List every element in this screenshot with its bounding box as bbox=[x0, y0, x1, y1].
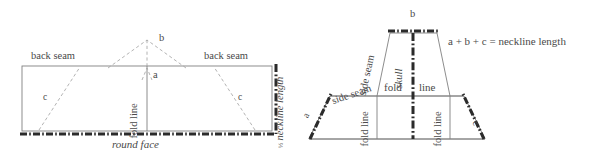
label-neckline-length: neckline length bbox=[275, 77, 286, 141]
label-fold-line-left-diagram: fold line bbox=[129, 103, 140, 138]
label-neckline-fraction: ½ bbox=[278, 143, 285, 148]
label-fold-line-right-right: fold line bbox=[433, 111, 444, 146]
right-segment-a-line bbox=[310, 94, 331, 139]
label-segment-a-left: a bbox=[153, 70, 158, 81]
label-segment-c-left: c bbox=[43, 93, 47, 103]
diagram-canvas: .thin { stroke:#808080; stroke-width:0.9… bbox=[0, 0, 596, 160]
label-fold-center-left: fold bbox=[384, 82, 402, 93]
label-neckline-equation: a + b + c = neckline length bbox=[448, 36, 566, 47]
diagram-vector-layer: .thin { stroke:#808080; stroke-width:0.9… bbox=[0, 0, 596, 160]
label-back-seam-right: back seam bbox=[204, 51, 248, 62]
label-back-seam-left: back seam bbox=[31, 51, 75, 62]
label-segment-b-left: b bbox=[159, 33, 164, 44]
label-round-face: round face bbox=[112, 139, 159, 150]
label-fold-center-right: line bbox=[419, 82, 436, 93]
label-segment-c-right: c bbox=[238, 93, 242, 103]
label-fold-line-right-left: fold line bbox=[360, 111, 371, 146]
right-segment-c-line bbox=[463, 94, 484, 139]
label-segment-b-right: b bbox=[410, 9, 415, 20]
